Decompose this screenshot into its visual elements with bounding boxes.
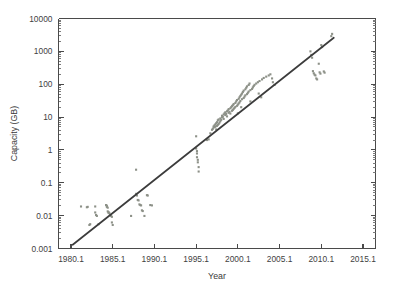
data-point <box>258 93 260 95</box>
y-tick-label: 100 <box>39 79 53 89</box>
data-point <box>112 224 114 226</box>
trend-line <box>73 38 334 245</box>
data-point <box>271 77 273 79</box>
data-point <box>94 211 96 213</box>
y-tick-label: 0.01 <box>36 211 53 221</box>
data-point <box>240 106 242 108</box>
data-point <box>140 204 142 206</box>
data-point <box>320 44 322 46</box>
x-axis-title-label: Year <box>208 271 226 281</box>
data-point <box>263 77 265 79</box>
capacity-vs-year-scatter-plot: 0.0010.010.11101001000100001980.11985.11… <box>0 0 400 292</box>
data-point <box>111 216 113 218</box>
x-tick-label: 2000.1 <box>225 254 251 264</box>
y-tick-label: 10000 <box>29 14 53 24</box>
data-points-group <box>80 33 333 226</box>
data-point <box>135 169 137 171</box>
data-point <box>107 207 109 209</box>
data-point <box>314 74 316 76</box>
x-tick-label: 2015.1 <box>350 254 376 264</box>
data-point <box>324 72 326 74</box>
data-point <box>196 152 198 154</box>
data-point <box>226 115 228 117</box>
data-point <box>258 80 260 82</box>
data-point <box>130 215 132 217</box>
x-tick-label: 1980.1 <box>58 254 84 264</box>
data-point <box>196 156 198 158</box>
data-point <box>147 194 149 196</box>
data-point <box>318 63 320 65</box>
y-axis-title-label: Capacity (GB) <box>9 106 19 161</box>
y-tick-label: 0.001 <box>32 244 53 254</box>
y-tick-label: 1000 <box>34 46 53 56</box>
data-point <box>198 166 200 168</box>
y-tick-label: 1 <box>48 145 53 155</box>
x-tick-label: 2005.1 <box>267 254 293 264</box>
data-point <box>316 78 318 80</box>
chart-figure: 0.0010.010.11101001000100001980.11985.11… <box>0 0 400 292</box>
x-tick-label: 1990.1 <box>142 254 168 264</box>
x-tick-label: 1985.1 <box>100 254 126 264</box>
y-tick-label: 10 <box>43 112 53 122</box>
data-point <box>248 82 250 84</box>
data-point <box>220 119 222 121</box>
data-point <box>111 221 113 223</box>
plot-frame <box>59 19 376 249</box>
x-tick-label: 1995.1 <box>183 254 209 264</box>
data-point <box>80 205 82 207</box>
data-point <box>87 206 89 208</box>
data-point <box>331 33 333 35</box>
data-point <box>138 199 140 201</box>
data-point <box>222 116 224 118</box>
data-point <box>272 81 274 83</box>
data-point <box>142 210 144 212</box>
data-point <box>151 204 153 206</box>
data-point <box>197 159 199 161</box>
data-point <box>319 73 321 75</box>
data-point <box>265 76 267 78</box>
data-point <box>143 215 145 217</box>
data-point <box>96 215 98 217</box>
data-point <box>223 118 225 120</box>
data-point <box>330 35 332 37</box>
y-tick-label: 0.1 <box>41 178 53 188</box>
data-point <box>269 73 271 75</box>
data-point <box>198 170 200 172</box>
data-point <box>89 223 91 225</box>
data-point <box>225 113 227 115</box>
data-point <box>249 100 251 102</box>
data-point <box>312 70 314 72</box>
x-tick-label: 2010.1 <box>308 254 334 264</box>
data-point <box>196 150 198 152</box>
data-point <box>309 50 311 52</box>
data-point <box>229 113 231 115</box>
data-point <box>94 205 96 207</box>
data-point <box>197 161 199 163</box>
data-point <box>311 57 313 59</box>
data-point <box>195 135 197 137</box>
